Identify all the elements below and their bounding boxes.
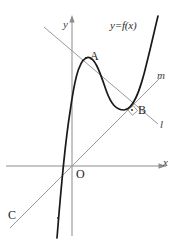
- point-B-marker: [131, 109, 133, 111]
- point-markers-group: [57, 57, 133, 219]
- function-label: y=f(x): [110, 20, 136, 31]
- y-axis-arrowhead: [69, 15, 74, 23]
- origin-label: O: [76, 168, 85, 180]
- point-label-C: C: [8, 209, 16, 221]
- point-label-A: A: [90, 50, 99, 62]
- point-C-marker: [57, 217, 59, 219]
- line-label-m: m: [157, 70, 165, 81]
- figure-canvas: [0, 0, 176, 243]
- line-m-group: [10, 78, 160, 228]
- x-axis-label: x: [163, 157, 168, 168]
- line-label-l: l: [160, 119, 163, 130]
- point-label-B: B: [138, 104, 146, 116]
- y-axis-label: y: [63, 19, 68, 30]
- axes-group: [6, 15, 166, 236]
- figure-container: y x O y=f(x) A B C m l: [0, 0, 176, 243]
- line-m: [10, 78, 160, 228]
- point-A-marker: [85, 57, 87, 59]
